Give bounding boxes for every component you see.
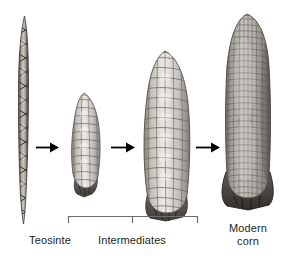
teosinte-ear — [14, 14, 36, 228]
teosinte-label: Teosinte — [10, 234, 90, 247]
intermediates-label: Intermediates — [82, 234, 182, 247]
intermediates-bracket — [66, 214, 200, 226]
intermediate-small-ear — [64, 88, 112, 198]
maize-evolution-figure: Teosinte Intermediates Modern corn — [0, 0, 293, 258]
arrow-intermediate-small-to-large-icon — [111, 141, 136, 154]
intermediate-large-ear — [135, 47, 201, 222]
modern-corn-label: Modern corn — [208, 222, 288, 248]
modern-corn-ear — [217, 10, 279, 215]
arrow-teosinte-to-intermediate-icon — [36, 141, 60, 154]
